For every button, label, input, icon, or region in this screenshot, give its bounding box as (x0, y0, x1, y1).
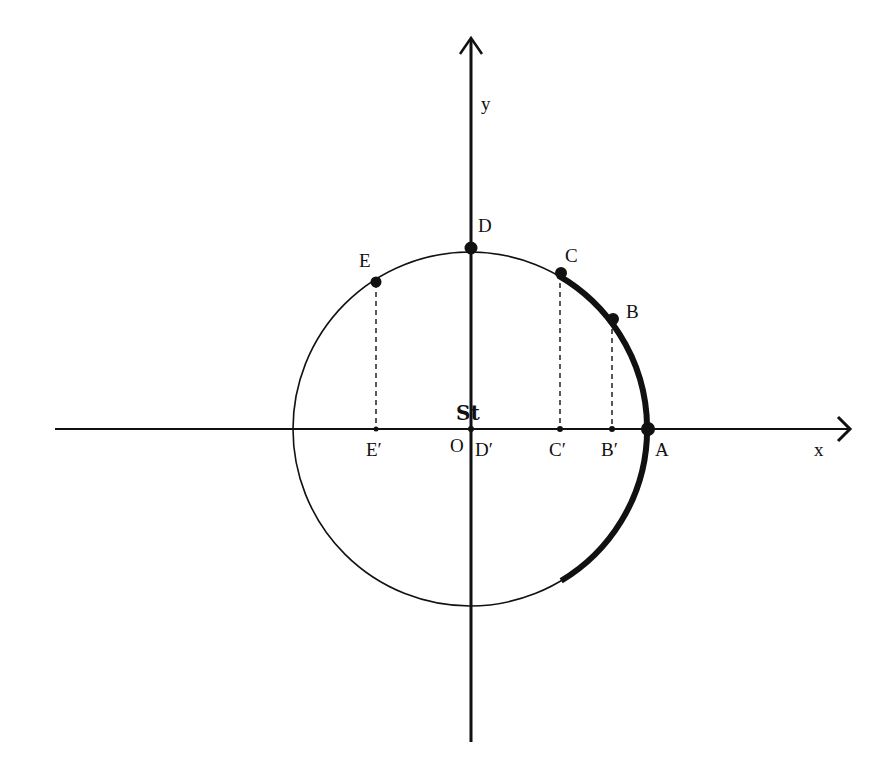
label-d: D (478, 215, 492, 236)
point-origin (468, 426, 474, 432)
point-b (607, 313, 619, 325)
projection-lines (376, 274, 612, 429)
labels: y x D C B E A O D′ C′ B′ E′ St (359, 93, 824, 460)
point-e-prime (374, 427, 379, 432)
label-e: E (359, 250, 371, 271)
label-e-prime: E′ (366, 439, 382, 460)
label-c: C (565, 245, 578, 266)
y-axis-label: y (481, 93, 491, 114)
point-c-prime (557, 426, 563, 432)
label-d-prime: D′ (475, 439, 493, 460)
point-a (641, 422, 655, 436)
label-b-prime: B′ (601, 439, 618, 460)
origin-mark: St (456, 401, 480, 425)
axes (55, 38, 850, 742)
label-a: A (655, 439, 669, 460)
point-c (555, 267, 567, 279)
label-c-prime: C′ (549, 439, 566, 460)
point-d (465, 242, 478, 255)
x-axis-label: x (814, 439, 824, 460)
label-origin: O (450, 435, 464, 456)
label-b: B (626, 301, 639, 322)
unit-circle-diagram: y x D C B E A O D′ C′ B′ E′ St (0, 0, 886, 770)
point-b-prime (609, 426, 615, 432)
point-e (371, 277, 382, 288)
